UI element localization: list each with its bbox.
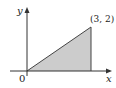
x-axis-label: x — [106, 73, 112, 84]
triangle-region-diagram: y x 0 (3, 2) — [0, 0, 116, 88]
y-axis-label: y — [16, 5, 23, 16]
y-axis-arrow-icon — [25, 7, 30, 13]
origin-label: 0 — [19, 73, 25, 84]
point-label: (3, 2) — [90, 14, 114, 24]
